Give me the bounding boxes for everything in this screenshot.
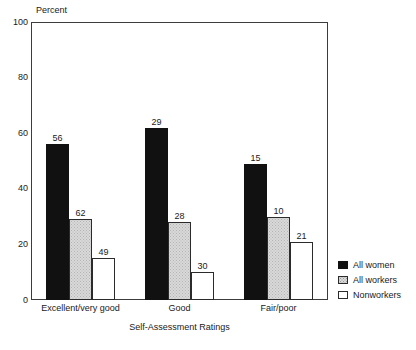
x-axis-title: Self-Assessment Ratings [31, 322, 328, 333]
bar-group: 292830 [145, 22, 214, 300]
x-category-label: Excellent/very good [41, 303, 120, 314]
y-tick-label: 0 [2, 296, 28, 305]
y-tick-label: 60 [2, 129, 28, 138]
bar: 15 [244, 164, 267, 300]
legend-item: All women [338, 258, 414, 272]
legend: All womenAll workersNonworkers [338, 258, 414, 303]
bar-group: 151021 [244, 22, 313, 300]
legend-label: All workers [353, 275, 397, 285]
bar: 62 [69, 219, 92, 300]
bar: 49 [92, 258, 115, 300]
legend-swatch-icon [338, 291, 348, 299]
y-tick-label: 100 [2, 18, 28, 27]
bar-value-label: 29 [151, 118, 161, 127]
x-axis-category-labels: Excellent/very goodGoodFair/poor [31, 303, 328, 317]
bar: 30 [191, 272, 214, 300]
legend-swatch-icon [338, 261, 348, 269]
legend-item: All workers [338, 273, 414, 287]
y-axis-title: Percent [36, 5, 67, 16]
y-tick-label: 40 [2, 184, 28, 193]
bar: 29 [145, 128, 168, 300]
bar-value-label: 49 [98, 248, 108, 257]
x-category-label: Fair/poor [260, 303, 296, 314]
bar-value-label: 56 [52, 134, 62, 143]
legend-swatch-icon [338, 276, 348, 284]
bar-value-label: 10 [273, 207, 283, 216]
legend-item: Nonworkers [338, 288, 414, 302]
bar-value-label: 15 [250, 154, 260, 163]
bar-value-label: 30 [197, 262, 207, 271]
bar-value-label: 21 [296, 232, 306, 241]
bar: 56 [46, 144, 69, 300]
y-tick-label: 20 [2, 240, 28, 249]
bar: 10 [267, 217, 290, 300]
bar: 28 [168, 222, 191, 300]
y-tick-label: 80 [2, 73, 28, 82]
legend-label: All women [353, 260, 395, 270]
legend-label: Nonworkers [353, 290, 401, 300]
bar-group: 566249 [46, 22, 115, 300]
x-category-label: Good [168, 303, 190, 314]
bars-layer: 566249292830151021 [31, 22, 328, 300]
bar-value-label: 62 [75, 209, 85, 218]
y-axis-tick-labels: 020406080100 [0, 22, 28, 300]
bar-value-label: 28 [174, 212, 184, 221]
chart-figure: Percent 020406080100 566249292830151021 … [0, 0, 416, 350]
bar: 21 [290, 242, 313, 300]
